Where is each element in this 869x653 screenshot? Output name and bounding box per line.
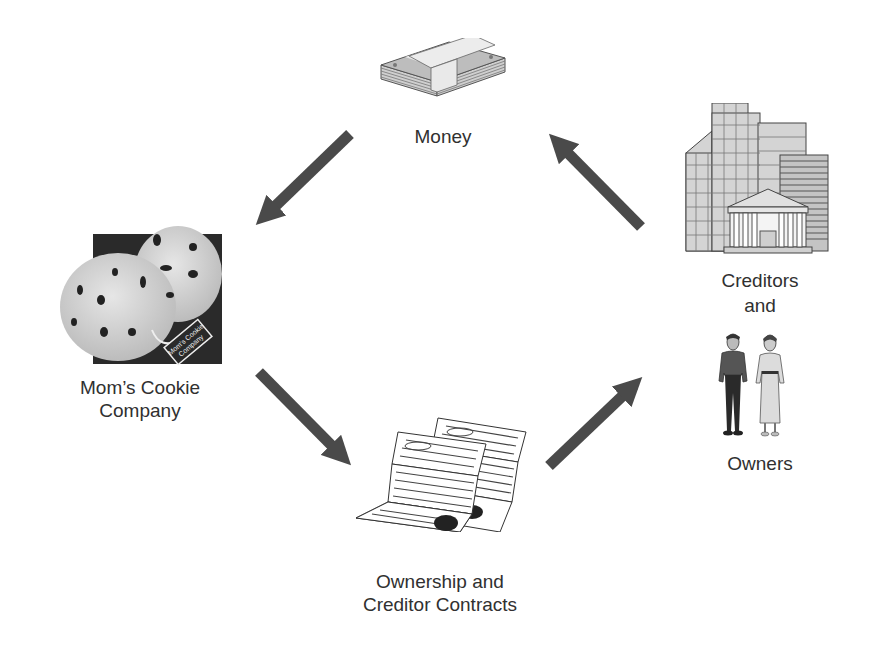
and-label: and: [695, 294, 825, 317]
money-label: Money: [388, 125, 498, 148]
arrow-creditors-to-money: [557, 142, 641, 227]
contracts-label-line2: Creditor Contracts: [330, 593, 550, 616]
cookies-icon: Mom's Cookie Company: [60, 212, 226, 366]
contracts-label-line1: Ownership and: [330, 570, 550, 593]
company-label: Mom’s Cookie Company: [40, 376, 240, 422]
company-label-line2: Company: [40, 399, 240, 422]
owners-label: Owners: [695, 452, 825, 475]
creditors-label: Creditors: [695, 269, 825, 292]
arrow-company-to-contracts: [259, 372, 343, 457]
buildings-icon: [684, 103, 832, 255]
company-label-line1: Mom’s Cookie: [40, 376, 240, 399]
arrow-money-to-company: [264, 134, 350, 217]
arrow-contracts-to-creditors: [549, 385, 634, 466]
money-stack-icon: [375, 38, 511, 100]
woman-figure: [756, 335, 784, 436]
contracts-label: Ownership and Creditor Contracts: [330, 570, 550, 616]
people-icon: [716, 333, 788, 439]
man-figure: [719, 334, 747, 436]
contracts-icon: [350, 414, 530, 532]
